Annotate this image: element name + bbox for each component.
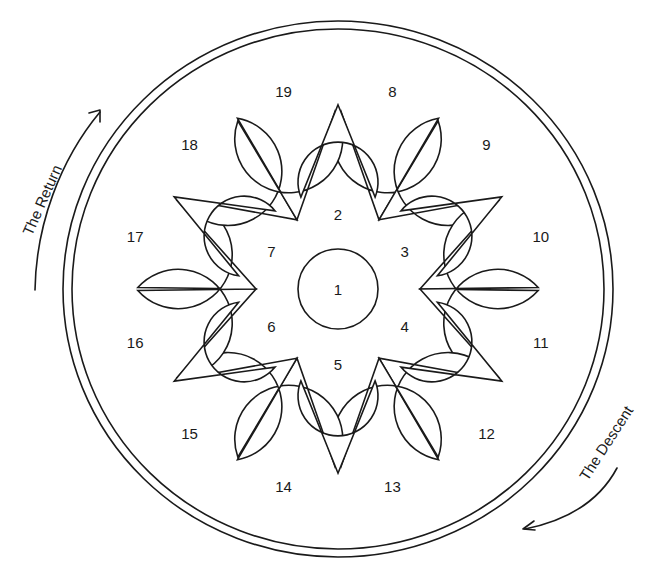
center-label: 1 <box>334 281 342 298</box>
petal-label-8: 8 <box>388 83 396 100</box>
diagram-canvas: 8910111213141516171819 234567 1 The Retu… <box>0 0 653 572</box>
petal-label-10: 10 <box>532 228 549 245</box>
petal-label-18: 18 <box>181 136 198 153</box>
descent-arrow <box>525 468 617 529</box>
petal-label-12: 12 <box>478 425 495 442</box>
petal-label-11: 11 <box>533 334 549 351</box>
petal-label-2: 2 <box>334 206 342 223</box>
petal-label-14: 14 <box>275 478 292 495</box>
petal-label-9: 9 <box>482 136 490 153</box>
petal-label-6: 6 <box>267 318 275 335</box>
petal-label-4: 4 <box>401 318 409 335</box>
return-arrowhead-icon <box>89 110 100 122</box>
center-circle-group: 1 <box>298 249 378 329</box>
return-label: The Return <box>19 162 65 237</box>
petal-label-17: 17 <box>127 228 144 245</box>
petal-label-7: 7 <box>267 243 275 260</box>
petal-label-16: 16 <box>127 334 144 351</box>
rose-window-diagram: 8910111213141516171819 234567 1 The Retu… <box>0 0 653 572</box>
petal-label-13: 13 <box>384 478 401 495</box>
descent-label: The Descent <box>576 402 637 483</box>
petal-label-3: 3 <box>401 243 409 260</box>
petal-label-5: 5 <box>334 356 342 373</box>
petal-label-19: 19 <box>275 83 292 100</box>
petal-label-15: 15 <box>181 425 198 442</box>
